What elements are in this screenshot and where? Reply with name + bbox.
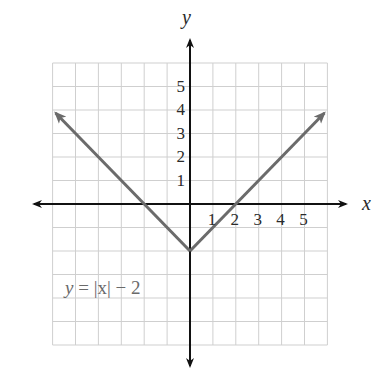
y-axis-label: y xyxy=(180,6,191,29)
y-tick-label: 4 xyxy=(177,100,186,119)
x-tick-label: 4 xyxy=(276,210,285,229)
y-tick-label: 5 xyxy=(177,77,186,96)
equation-label: y = |x| − 2 xyxy=(63,277,140,298)
y-tick-label: 3 xyxy=(177,124,186,143)
x-axis-label: x xyxy=(361,192,371,214)
tick-labels: 1234512345 xyxy=(177,77,308,230)
y-tick-label: 2 xyxy=(177,147,186,166)
y-tick-label: 1 xyxy=(177,171,186,190)
graph: 1234512345 x y y = |x| − 2 xyxy=(0,0,383,373)
x-tick-label: 5 xyxy=(299,210,308,229)
x-tick-label: 3 xyxy=(253,210,262,229)
axes xyxy=(34,40,346,366)
x-tick-label: 1 xyxy=(208,210,217,229)
x-tick-label: 2 xyxy=(231,210,240,229)
